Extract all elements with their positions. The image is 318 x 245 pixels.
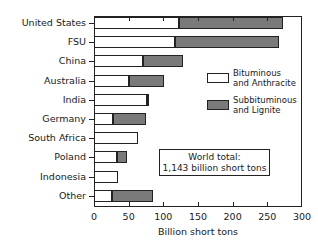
x-tick: [129, 202, 130, 207]
category-label: Australia: [44, 75, 86, 87]
x-tick-label: 0: [79, 211, 109, 222]
legend-line: Bituminous: [233, 68, 296, 78]
annotation-line: 1,143 billion short tons: [160, 163, 269, 174]
legend-line: Subbituminous: [233, 95, 297, 105]
x-tick-label: 300: [287, 211, 317, 222]
category-label: China: [59, 55, 86, 67]
bar-subbituminous: [175, 36, 279, 48]
x-axis-title: Billion short tons: [94, 226, 302, 237]
category-label: Germany: [42, 113, 86, 125]
category-label: United States: [22, 17, 86, 29]
legend-line: and Anthracite: [233, 78, 296, 88]
world-total-annotation: World total: 1,143 billion short tons: [159, 149, 270, 176]
bar-subbituminous: [117, 151, 127, 163]
x-tick: [233, 202, 234, 207]
bar-subbituminous: [112, 190, 153, 202]
x-tick: [163, 202, 164, 207]
category-label: FSU: [68, 36, 86, 48]
x-tick: [267, 202, 268, 207]
bar-subbituminous: [147, 94, 149, 106]
bar-bituminous: [94, 171, 118, 183]
category-label: Indonesia: [40, 171, 86, 183]
x-tick-top: [163, 16, 164, 21]
category-label: Poland: [54, 151, 86, 163]
x-tick-label: 100: [148, 211, 178, 222]
annotation-line: World total:: [160, 152, 269, 163]
bar-bituminous: [94, 132, 138, 144]
legend-label-subbituminous: Subbituminous and Lignite: [233, 95, 297, 115]
x-tick-label: 150: [183, 211, 213, 222]
x-tick-top: [233, 16, 234, 21]
bar-bituminous: [94, 17, 179, 29]
category-label: India: [63, 94, 86, 106]
x-tick-label: 200: [218, 211, 248, 222]
x-tick: [198, 202, 199, 207]
legend-swatch-subbituminous: [207, 100, 229, 110]
bar-bituminous: [94, 75, 129, 87]
bar-bituminous: [94, 36, 175, 48]
bar-subbituminous: [143, 55, 183, 67]
x-tick-top: [198, 16, 199, 21]
bar-bituminous: [94, 190, 112, 202]
category-label: Other: [59, 190, 86, 202]
legend-label-bituminous: Bituminous and Anthracite: [233, 68, 296, 88]
bar-bituminous: [94, 113, 113, 125]
legend-line: and Lignite: [233, 105, 297, 115]
x-tick-top: [129, 16, 130, 21]
bar-bituminous: [94, 151, 117, 163]
x-tick-label: 50: [114, 211, 144, 222]
bar-bituminous: [94, 94, 147, 106]
bar-bituminous: [94, 55, 143, 67]
x-tick-label: 250: [252, 211, 282, 222]
bar-subbituminous: [129, 75, 164, 87]
category-label: South Africa: [28, 132, 86, 144]
x-tick-top: [267, 16, 268, 21]
bar-subbituminous: [113, 113, 146, 125]
legend-swatch-bituminous: [207, 73, 229, 83]
